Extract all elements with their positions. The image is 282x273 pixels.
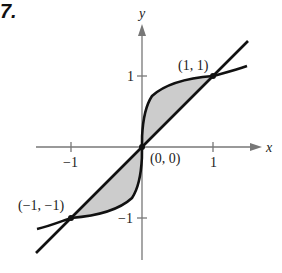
x-tick-label-1: 1 [210,155,217,170]
x-tick-label-neg1: −1 [63,155,78,170]
x-axis-arrow-icon [250,143,262,151]
y-tick-label-neg1: −1 [118,211,133,226]
x-axis-label: x [265,140,273,155]
chart: x y −1 1 1 −1 (1, 1) (0, 0) (−1, −1) [0,0,282,273]
y-axis-label: y [137,6,146,21]
point-neg1-neg1 [68,215,74,221]
y-tick-label-1: 1 [127,69,134,84]
point-origin [139,144,145,150]
point-label-origin: (0, 0) [150,151,181,167]
y-axis-arrow-icon [138,24,146,36]
point-1-1 [210,73,216,79]
point-label-1-1: (1, 1) [178,58,209,74]
point-label-neg1-neg1: (−1, −1) [18,198,64,214]
